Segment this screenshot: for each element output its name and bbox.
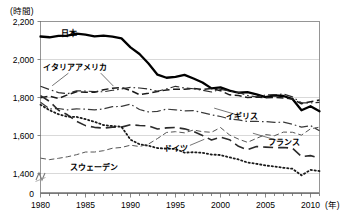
x-tick-label: 2000 xyxy=(211,200,230,210)
y-tick-label: 1,800 xyxy=(13,93,35,103)
series-labels: 日本アメリカイタリアイギリスフランスドイツスウェーデン xyxy=(43,28,299,173)
leader-line xyxy=(52,73,68,86)
series-label: 日本 xyxy=(61,28,77,38)
x-tick-label: 1985 xyxy=(76,200,95,210)
leader-line xyxy=(101,73,114,86)
y-tick-label: 1,600 xyxy=(13,131,35,141)
y-axis-unit-label: (時間) xyxy=(10,6,34,16)
y-tick-label: 2,000 xyxy=(13,55,35,65)
series-line xyxy=(41,34,320,112)
series-label: イギリス xyxy=(226,111,258,121)
y-tick-label: 0 xyxy=(29,189,34,199)
x-tick-label: 1980 xyxy=(31,200,50,210)
y-tick-label: 2,200 xyxy=(13,17,35,27)
series-label: アメリカ xyxy=(75,63,107,72)
series-label: ドイツ xyxy=(164,144,188,153)
series-label: スウェーデン xyxy=(70,162,118,172)
y-tick-label: 1,400 xyxy=(13,169,35,179)
series-lines xyxy=(41,34,320,176)
series-label: イタリア xyxy=(43,62,75,72)
leader-line xyxy=(190,139,204,145)
x-axis-ticks: 1980198519901995200020052010 xyxy=(31,194,320,211)
y-axis-ticks: 01,4001,6001,8002,0002,200 xyxy=(13,17,41,199)
time-series-chart: 01,4001,6001,8002,0002,200 1980198519901… xyxy=(0,0,362,220)
x-tick-label: 1990 xyxy=(121,200,140,210)
x-axis-unit-label: (年) xyxy=(325,200,340,210)
x-tick-label: 2010 xyxy=(301,200,320,210)
x-tick-label: 2005 xyxy=(256,200,275,210)
series-line xyxy=(41,102,320,131)
chart-canvas: 01,4001,6001,8002,0002,200 1980198519901… xyxy=(0,0,362,220)
x-tick-label: 1995 xyxy=(166,200,185,210)
series-label: フランス xyxy=(268,138,300,147)
